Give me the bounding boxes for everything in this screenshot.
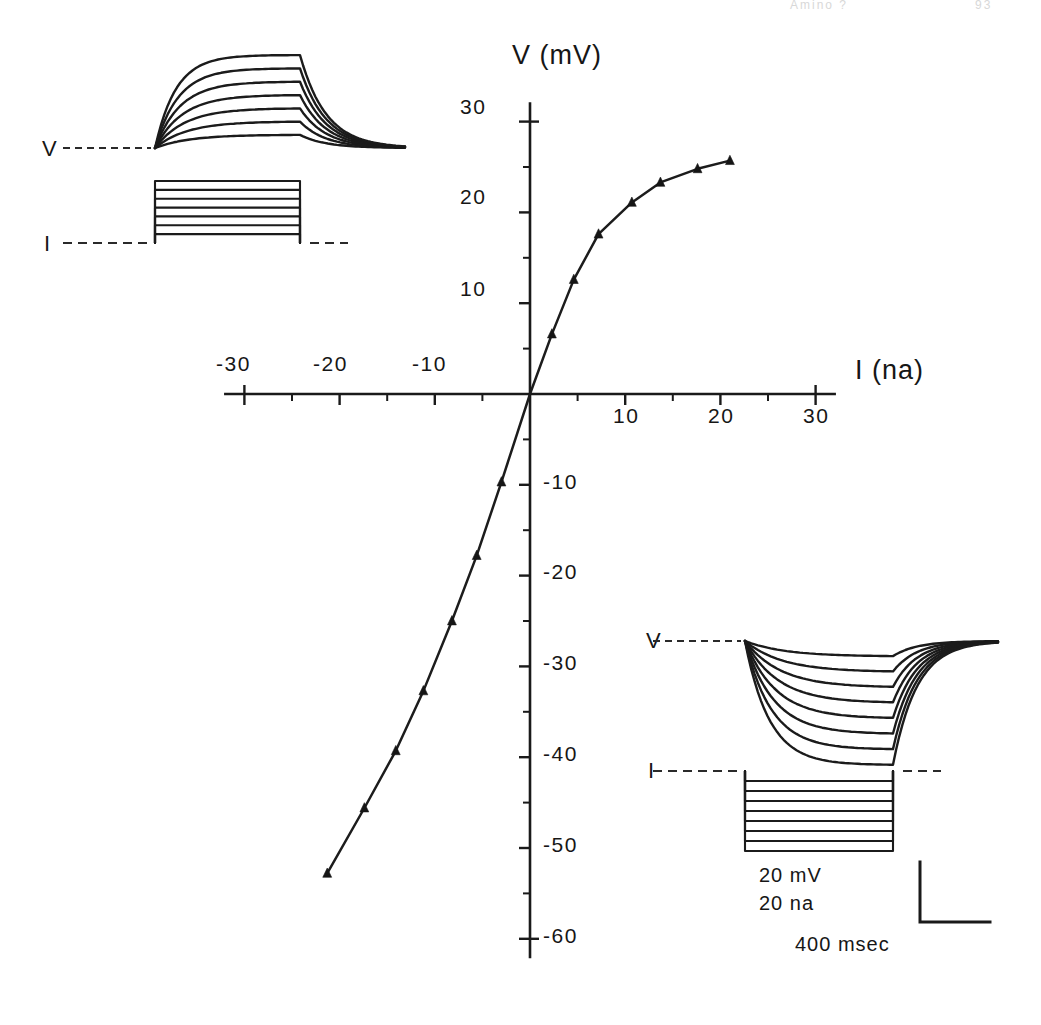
iv-data-point	[547, 329, 556, 338]
figure-canvas: Amino ? 93 V (mV) I (na) -30 -20 -10 10 …	[0, 0, 1041, 1025]
inset-bottom-right-traces	[653, 641, 998, 851]
iv-data-point	[497, 477, 506, 486]
iv-curve-series	[323, 155, 735, 877]
figure-vector-layer	[0, 0, 1041, 1025]
iv-data-point	[448, 616, 457, 625]
inset-current-step	[745, 771, 893, 821]
inset-top-left-traces	[63, 55, 405, 243]
scalebar-L-shape	[920, 862, 990, 922]
iv-data-point	[472, 550, 481, 559]
iv-curve-line	[327, 161, 730, 874]
inset-current-step	[745, 771, 893, 801]
axes-group	[225, 103, 834, 957]
inset-voltage-trace	[745, 641, 998, 718]
inset-current-step	[155, 216, 300, 243]
inset-current-step	[155, 234, 300, 243]
iv-data-point	[725, 155, 734, 164]
inset-current-step	[155, 199, 300, 243]
inset-current-step	[745, 771, 893, 781]
iv-data-point	[419, 686, 428, 695]
